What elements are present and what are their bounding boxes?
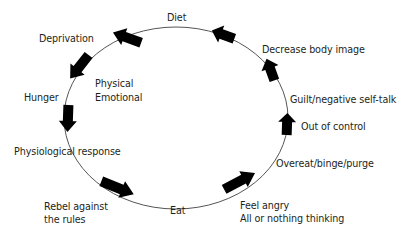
- label-emotional: Emotional: [95, 91, 142, 104]
- label-all-or-nothing: All or nothing thinking: [240, 212, 344, 225]
- arrow-icon: [110, 24, 144, 51]
- arrow-icon: [63, 49, 96, 84]
- label-rebel-line1: Rebel against: [44, 200, 108, 213]
- label-guilt: Guilt/negative self-talk: [290, 93, 396, 106]
- label-diet: Diet: [167, 11, 186, 24]
- arrow-icon: [58, 105, 77, 133]
- cycle-ellipse: [64, 27, 288, 209]
- label-decrease-body-image: Decrease body image: [262, 43, 365, 56]
- label-overeat: Overeat/binge/purge: [276, 157, 374, 170]
- label-eat: Eat: [170, 204, 185, 217]
- label-feel-angry: Feel angry: [240, 199, 289, 212]
- label-out-of-control: Out of control: [301, 120, 366, 133]
- label-physiological-response: Physiological response: [14, 145, 121, 158]
- arrow-icon: [209, 22, 238, 47]
- arrow-icon: [278, 113, 297, 136]
- label-physical: Physical: [95, 77, 133, 90]
- label-hunger: Hunger: [24, 91, 59, 104]
- label-rebel-line2: the rules: [44, 213, 86, 226]
- label-deprivation: Deprivation: [39, 32, 94, 45]
